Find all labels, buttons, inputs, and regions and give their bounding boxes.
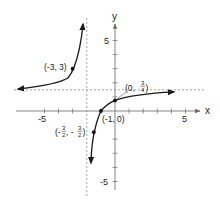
curve-right-branch	[91, 92, 174, 163]
rational-function-graph: x y -5 5 5 -5 (-3, 3) (0, 3 4 ) (-1, 0) …	[0, 0, 220, 201]
curve-left-branch	[18, 24, 83, 89]
point-neg1-0	[99, 109, 103, 113]
svg-text:(-: (-	[55, 127, 61, 137]
point-neg-three-halves	[92, 130, 96, 134]
svg-text:, -: , -	[66, 127, 74, 137]
y-tick-label-neg5: -5	[100, 177, 108, 187]
x-axis-label: x	[205, 105, 210, 116]
svg-text:4: 4	[141, 87, 145, 93]
y-tick-label-5: 5	[104, 36, 109, 46]
svg-text:): )	[146, 83, 149, 93]
label-neg3-3: (-3, 3)	[44, 62, 67, 72]
svg-text:3: 3	[78, 125, 82, 131]
svg-text:): )	[83, 127, 86, 137]
label-neg1-0: (-1, 0)	[102, 114, 125, 124]
svg-text:2: 2	[78, 132, 82, 138]
svg-text:3: 3	[141, 80, 145, 86]
y-axis-label: y	[112, 11, 117, 22]
svg-text:(0,: (0,	[125, 83, 135, 93]
point-neg3-3	[71, 67, 75, 71]
x-tick-label-neg5: -5	[38, 114, 46, 124]
point-0-three-quarters	[113, 99, 117, 103]
label-neg-three-halves: (- 3 2 , - 3 2 )	[55, 125, 86, 139]
label-0-three-quarters: (0, 3 4 )	[125, 80, 149, 94]
x-tick-label-5: 5	[182, 114, 187, 124]
